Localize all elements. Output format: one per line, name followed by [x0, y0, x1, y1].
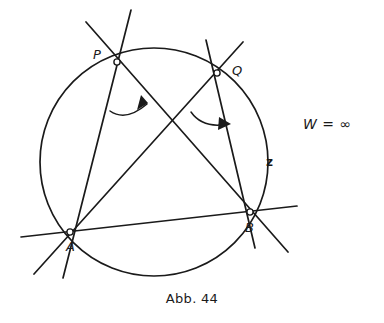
- annotation-w-equals-infinity: W = ∞: [303, 117, 352, 131]
- vertex-label-P: P: [93, 48, 101, 61]
- figure-caption: Abb. 44: [0, 291, 384, 306]
- vertex-label-A: A: [66, 240, 75, 253]
- vertex-label-Q: Q: [232, 64, 242, 77]
- angle-arc-at-P: [110, 95, 148, 115]
- vertex-marker-P: [114, 59, 120, 65]
- vertex-marker-A: [67, 229, 73, 235]
- vertex-marker-Q: [214, 70, 220, 76]
- chord-A-B: [21, 206, 297, 237]
- chord-Q-B: [206, 40, 255, 248]
- angle-arc-at-Q: [191, 112, 231, 130]
- geometry-figure: [0, 0, 384, 323]
- figure-page: P Q A B z W = ∞ Abb. 44: [0, 0, 384, 323]
- circle-label-z: z: [266, 156, 273, 168]
- vertex-marker-B: [247, 209, 253, 215]
- vertex-label-B: B: [245, 221, 254, 234]
